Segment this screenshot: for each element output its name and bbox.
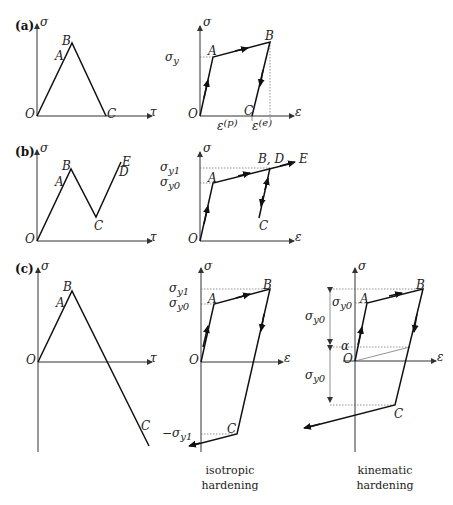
sigma-y-label: σy: [165, 50, 179, 66]
direction-arrow: [236, 294, 250, 298]
point-E: E: [298, 152, 308, 166]
direction-arrow: [204, 206, 208, 224]
direction-arrow: [204, 80, 208, 98]
point-O: O: [343, 352, 353, 366]
point-C: C: [107, 107, 116, 121]
upper-dim-label: σy0: [305, 309, 326, 325]
point-B: B: [61, 159, 71, 173]
tau-axis-label: τ: [150, 351, 157, 365]
point-A: A: [207, 292, 217, 306]
sigma-axis-label: σ: [41, 259, 50, 273]
sigma-axis-label: σ: [40, 15, 49, 29]
isotropic-caption-line2: hardening: [201, 479, 258, 492]
unload-reload-path: [259, 168, 270, 218]
elastic-strain-label: ε(e): [252, 117, 272, 133]
direction-arrow: [358, 327, 362, 345]
epsilon-axis-label: ε: [295, 230, 301, 244]
sigma-axis-label: σ: [40, 141, 49, 155]
point-E: E: [121, 155, 131, 169]
point-C: C: [141, 419, 150, 433]
point-A: A: [207, 171, 217, 185]
panel-a-label: (a): [15, 19, 34, 33]
panel-b-left-plot: (b) σ τ O A B C D E: [15, 141, 157, 246]
point-B: B: [61, 34, 71, 48]
epsilon-axis-label: ε: [437, 350, 443, 364]
sigma-axis-label: σ: [358, 259, 367, 273]
point-A: A: [207, 44, 217, 58]
panel-c-left-plot: (c) σ τ O A B C: [15, 259, 157, 452]
plastic-strain-label: ε(p): [217, 117, 238, 133]
point-BD: B, D: [257, 152, 284, 166]
point-C: C: [394, 407, 403, 421]
direction-arrow: [304, 424, 320, 428]
stress-path: [38, 291, 149, 446]
tau-axis-label: τ: [150, 230, 157, 244]
panel-b-label: (b): [15, 145, 35, 159]
point-C: C: [94, 219, 103, 233]
point-A: A: [54, 175, 64, 189]
point-C: C: [227, 422, 236, 436]
direction-arrow: [261, 314, 264, 331]
panel-c-kinematic-plot: σ ε σy0 σy0 σy0 α O A B C kinematic hard…: [304, 259, 443, 492]
stress-path: [37, 162, 121, 241]
point-A: A: [54, 49, 64, 63]
isotropic-caption-line1: isotropic: [206, 464, 255, 477]
sigma-axis-label: σ: [203, 141, 212, 155]
sigma-axis-label: σ: [203, 15, 212, 29]
point-O: O: [25, 232, 35, 246]
epsilon-axis-label: ε: [295, 105, 301, 119]
epsilon-axis-label: ε: [284, 351, 290, 365]
sigma-y1-label: σy1: [160, 160, 180, 176]
point-O: O: [188, 232, 198, 246]
back-stress-line: [355, 347, 410, 361]
stress-path: [37, 43, 106, 116]
lower-dim-label: σy0: [305, 368, 326, 384]
point-O: O: [25, 107, 35, 121]
point-B: B: [62, 280, 72, 294]
point-A: A: [359, 292, 369, 306]
direction-arrow: [235, 48, 248, 51]
point-C: C: [244, 104, 253, 118]
alpha-label: α: [341, 339, 349, 353]
sigma-axis-label: σ: [204, 259, 213, 273]
sigma-y1-label: σy1: [169, 281, 189, 297]
point-O: O: [26, 353, 36, 367]
point-O: O: [188, 107, 198, 121]
point-B: B: [262, 278, 272, 292]
kinematic-caption-line2: hardening: [356, 479, 413, 492]
point-O: O: [189, 353, 199, 367]
direction-arrow: [265, 178, 268, 190]
panel-a-left-plot: (a) σ τ O A B C: [15, 15, 157, 121]
panel-b-right-plot: σ ε σy1 σy0 O A B, D C E: [160, 141, 308, 246]
point-B: B: [415, 278, 425, 292]
direction-arrow: [260, 70, 263, 86]
kinematic-caption-line1: kinematic: [358, 464, 413, 477]
panel-c-isotropic-plot: σ ε σy1 σy0 −σy1 O A B C isotropic harde…: [162, 259, 290, 492]
sigma-y0-label: σy0: [160, 175, 181, 191]
tau-axis-label: τ: [150, 105, 157, 119]
point-B: B: [264, 29, 274, 43]
point-A: A: [55, 296, 65, 310]
sigma-y0-label: σy0: [332, 295, 353, 311]
panel-c-label: (c): [15, 262, 34, 276]
sigma-y0-label: σy0: [169, 296, 190, 312]
panel-a-right-plot: σ ε σy O A B C ε(p) ε(e): [165, 15, 301, 133]
hardening-diagram-figure: (a) σ τ O A B C σ ε σy O A B C ε(p) ε(e)…: [0, 0, 453, 505]
point-C: C: [259, 219, 268, 233]
neg-sigma-y1-label: −σy1: [162, 426, 192, 442]
